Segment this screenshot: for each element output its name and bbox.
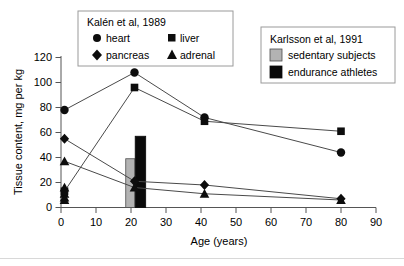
- data-point-liver: [131, 84, 139, 92]
- x-tick-label: 60: [265, 216, 277, 228]
- x-tick-label: 70: [300, 216, 312, 228]
- data-point-heart: [60, 106, 68, 114]
- series-group: [60, 68, 346, 204]
- legend-karlsson-item-sedentary: sedentary subjects: [288, 49, 376, 61]
- x-tick-label: 80: [335, 216, 347, 228]
- y-axis-title: Tissue content, mg per kg: [12, 69, 24, 195]
- series-line-pancreas: [65, 139, 342, 199]
- y-tick-label: 0: [46, 201, 52, 213]
- gray-swatch-icon: [270, 49, 282, 61]
- y-tick-label: 100: [34, 76, 52, 88]
- data-point-liver: [337, 127, 345, 135]
- square-marker-icon: [168, 34, 176, 42]
- bar-endurance-athletes: [135, 136, 146, 207]
- legend-karlsson: Karlsson et al, 1991 sedentary subjects …: [261, 27, 395, 83]
- chart-figure: 0 20 40 60 80 100 120: [0, 0, 404, 266]
- data-point-heart: [337, 148, 345, 156]
- x-tick-labels: 0 10 20 30 40 50 60 70 80 90: [58, 216, 382, 228]
- x-tick-label: 50: [230, 216, 242, 228]
- y-tick-label: 60: [40, 126, 52, 138]
- x-tick-label: 20: [125, 216, 137, 228]
- y-tick-label: 120: [34, 51, 52, 63]
- x-axis-title: Age (years): [191, 235, 248, 247]
- series-line-heart: [65, 73, 342, 153]
- series-line-liver: [65, 88, 342, 192]
- x-tick-label: 0: [58, 216, 64, 228]
- y-tick-labels: 0 20 40 60 80 100 120: [34, 51, 52, 213]
- legend-karlsson-item-endurance: endurance athletes: [288, 66, 377, 78]
- legend-karlsson-title: Karlsson et al, 1991: [270, 33, 363, 45]
- y-tick-label: 80: [40, 101, 52, 113]
- bottom-divider: [0, 258, 404, 259]
- y-tick-label: 20: [40, 176, 52, 188]
- legend-kalen-item-adrenal: adrenal: [180, 49, 215, 61]
- legend-kalen-title: Kalén et al, 1989: [87, 16, 166, 28]
- x-ticks: [61, 208, 376, 214]
- x-tick-label: 30: [160, 216, 172, 228]
- y-tick-label: 40: [40, 151, 52, 163]
- legend-kalen-item-pancreas: pancreas: [106, 49, 149, 61]
- data-point-pancreas: [200, 180, 209, 190]
- data-point-heart: [130, 68, 138, 76]
- data-point-liver: [201, 117, 209, 125]
- chart-svg: 0 20 40 60 80 100 120: [0, 0, 404, 266]
- legend-kalen-item-heart: heart: [106, 32, 130, 44]
- bar-group: [126, 136, 146, 207]
- x-tick-label: 10: [90, 216, 102, 228]
- data-point-liver: [61, 187, 69, 195]
- x-tick-label: 90: [370, 216, 382, 228]
- legend-kalen-item-liver: liver: [180, 32, 200, 44]
- black-swatch-icon: [270, 66, 282, 78]
- y-ticks: [56, 58, 62, 208]
- x-tick-label: 40: [195, 216, 207, 228]
- circle-marker-icon: [93, 34, 101, 42]
- legend-kalen: Kalén et al, 1989 heart liver pancreas a…: [78, 11, 233, 66]
